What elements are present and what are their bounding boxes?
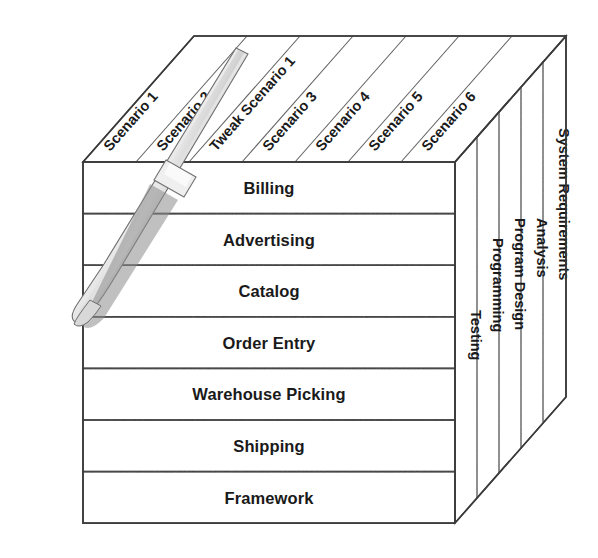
knife-icon [72,48,248,328]
front-label-framework: Framework [225,489,315,507]
top-face-labels: Scenario 1 Scenario 2 Tweak Scenario 1 S… [100,53,479,154]
right-face-labels: Testing Programming Program Design Analy… [468,128,572,360]
side-label-4: System Requirements [556,128,572,280]
cube-diagram: Scenario 1 Scenario 2 Tweak Scenario 1 S… [0,0,598,558]
side-label-0: Testing [468,310,484,360]
diagram-canvas: Scenario 1 Scenario 2 Tweak Scenario 1 S… [0,0,598,558]
front-label-order-entry: Order Entry [223,334,317,352]
front-face-labels: Billing Advertising Catalog Order Entry … [192,179,345,507]
front-label-shipping: Shipping [233,437,304,455]
side-label-2: Program Design [512,218,528,330]
front-label-billing: Billing [243,179,294,197]
front-label-advertising: Advertising [223,231,315,249]
front-label-warehouse-picking: Warehouse Picking [192,385,345,403]
front-label-catalog: Catalog [238,282,299,300]
right-face-plane [455,36,566,523]
side-label-3: Analysis [534,218,550,278]
cube-right-face [455,36,566,523]
side-label-1: Programming [490,238,506,332]
